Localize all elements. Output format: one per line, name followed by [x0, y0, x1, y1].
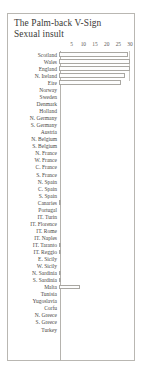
category-label: S. Greece: [8, 319, 59, 325]
category-label: C. France: [8, 164, 59, 170]
chart-title: The Palm-back V-Sign Sexual insult: [8, 14, 134, 39]
category-label: W. Sicily: [8, 263, 59, 269]
x-axis-tick-label: 20: [104, 41, 109, 47]
bar-track: [59, 51, 130, 58]
bar-track: [59, 129, 130, 136]
bar: [59, 285, 80, 290]
bar: [59, 278, 61, 283]
bar-track: [59, 164, 130, 171]
bar-row: W. Sicily: [8, 263, 130, 270]
category-label: N. France: [8, 150, 59, 156]
category-label: S. Belgium: [8, 143, 59, 149]
bar-track: [59, 178, 130, 185]
category-label: Corfu: [8, 305, 59, 311]
bar-track: [59, 206, 130, 213]
bar-row: S. Spain: [8, 192, 130, 199]
bar-track: [59, 65, 130, 72]
category-label: Wales: [8, 59, 59, 65]
bar: [59, 200, 61, 205]
bar-track: [59, 234, 130, 241]
category-label: Portugal: [8, 207, 59, 213]
bar-track: [59, 72, 130, 79]
bar-track: [59, 192, 130, 199]
category-label: S. Germany: [8, 122, 59, 128]
category-label: S. France: [8, 172, 59, 178]
bar-row: IT. Taranto: [8, 241, 130, 248]
bar-row: S. Greece: [8, 319, 130, 326]
bar-row: N. France: [8, 150, 130, 157]
bar-row: Eire: [8, 79, 130, 86]
bar-track: [59, 136, 130, 143]
category-label: Scotland: [8, 52, 59, 58]
bar-track: [59, 249, 130, 256]
bar-track: [59, 157, 130, 164]
bar-track: [59, 298, 130, 305]
category-label: Malta: [8, 284, 59, 290]
bar-track: [59, 108, 130, 115]
category-label: Turkey: [8, 327, 59, 333]
category-label: S. Spain: [8, 193, 59, 199]
category-label: Denmark: [8, 101, 59, 107]
bar-row: IT. Rome: [8, 227, 130, 234]
category-label: Holland: [8, 108, 59, 114]
bar-track: [59, 305, 130, 312]
bar-row: S. Germany: [8, 122, 130, 129]
bar-track: [59, 79, 130, 86]
bar-row: C. Spain: [8, 185, 130, 192]
bar-row: Tunisia: [8, 291, 130, 298]
bar-track: [59, 319, 130, 326]
bar-row: C. France: [8, 164, 130, 171]
bar-track: [59, 241, 130, 248]
bar-row: IT. Reggio: [8, 249, 130, 256]
bar-row: IT. Turin: [8, 213, 130, 220]
bar-row: Holland: [8, 108, 130, 115]
category-label: N. Greece: [8, 312, 59, 318]
bar-track: [59, 256, 130, 263]
chart-title-line-1: The Palm-back V-Sign: [14, 18, 134, 29]
chart-title-line-2: Sexual insult: [14, 29, 134, 40]
category-label: IT. Naples: [8, 235, 59, 241]
bar: [59, 73, 125, 78]
category-label: Austria: [8, 129, 59, 135]
chart-figure: The Palm-back V-Sign Sexual insult 51015…: [7, 13, 135, 361]
bar: [59, 243, 61, 248]
bar-row: S. Belgium: [8, 143, 130, 150]
bar-row: N. Spain: [8, 178, 130, 185]
plot-area: 51015202530 ScotlandWalesEnglandN. Irela…: [8, 41, 134, 361]
bar-track: [59, 277, 130, 284]
bar: [59, 80, 121, 85]
bar-track: [59, 150, 130, 157]
category-label: N. Belgium: [8, 136, 59, 142]
category-label: N. Spain: [8, 179, 59, 185]
bar-track: [59, 227, 130, 234]
category-label: E. Sicily: [8, 256, 59, 262]
bar-rows: ScotlandWalesEnglandN. IrelandEireNorway…: [8, 51, 130, 361]
category-label: Eire: [8, 80, 59, 86]
category-label: IT. Reggio: [8, 249, 59, 255]
x-axis-tick-label: 30: [127, 41, 132, 47]
bar: [59, 66, 130, 71]
bar-track: [59, 312, 130, 319]
bar-track: [59, 101, 130, 108]
x-axis-tick-label: 5: [70, 41, 73, 47]
category-label: IT. Florence: [8, 221, 59, 227]
x-axis-tick-label: 10: [81, 41, 86, 47]
category-label: C. Spain: [8, 186, 59, 192]
bar-row: N. Greece: [8, 312, 130, 319]
bar-row: Yugoslavia: [8, 298, 130, 305]
bar-track: [59, 199, 130, 206]
bar-row: S. Sardinia: [8, 277, 130, 284]
bar-track: [59, 143, 130, 150]
category-label: IT. Taranto: [8, 242, 59, 248]
x-axis: 51015202530: [60, 41, 130, 50]
bar-row: N. Germany: [8, 115, 130, 122]
bar-row: IT. Florence: [8, 220, 130, 227]
bar: [59, 59, 130, 64]
category-label: Sweden: [8, 94, 59, 100]
bar-row: N. Sardinia: [8, 270, 130, 277]
bar-row: E. Sicily: [8, 256, 130, 263]
bar-row: Canaries: [8, 199, 130, 206]
bar-row: S. France: [8, 171, 130, 178]
bar-row: W. France: [8, 157, 130, 164]
bar-track: [59, 115, 130, 122]
